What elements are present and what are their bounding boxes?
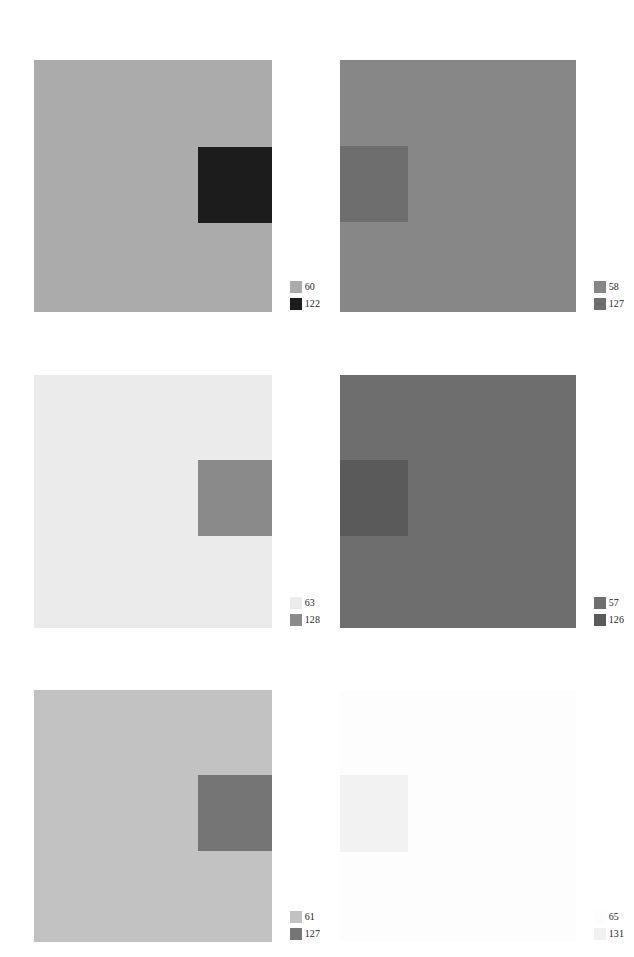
legend-value: 127 — [609, 298, 624, 310]
panel-1: 60 122 — [34, 60, 272, 312]
legend-item: 126 — [594, 613, 624, 626]
legend-item: 128 — [290, 613, 320, 626]
panel-3: 63 128 — [34, 375, 272, 628]
figure-grid: 60 122 58 127 63 — [0, 0, 634, 957]
legend-item: 122 — [290, 297, 320, 310]
legend-value: 127 — [305, 928, 320, 940]
panel-5-patch — [198, 775, 272, 851]
legend-swatch-icon — [594, 614, 606, 626]
legend-value: 58 — [609, 281, 619, 293]
legend-swatch-icon — [594, 911, 606, 923]
legend-value: 65 — [609, 911, 619, 923]
legend-item: 65 — [594, 910, 619, 923]
panel-2-legend: 58 127 — [594, 280, 624, 310]
legend-swatch-icon — [594, 928, 606, 940]
legend-swatch-icon — [290, 614, 302, 626]
legend-item: 127 — [290, 927, 320, 940]
legend-value: 63 — [305, 597, 315, 609]
legend-item: 57 — [594, 596, 619, 609]
panel-4: 57 126 — [340, 375, 576, 628]
legend-item: 60 — [290, 280, 315, 293]
legend-item: 58 — [594, 280, 619, 293]
legend-value: 61 — [305, 911, 315, 923]
legend-item: 63 — [290, 596, 315, 609]
legend-swatch-icon — [594, 298, 606, 310]
panel-4-legend: 57 126 — [594, 596, 624, 626]
legend-item: 61 — [290, 910, 315, 923]
panel-5-legend: 61 127 — [290, 910, 320, 940]
legend-value: 122 — [305, 298, 320, 310]
panel-3-legend: 63 128 — [290, 596, 320, 626]
legend-swatch-icon — [594, 597, 606, 609]
legend-value: 131 — [609, 928, 624, 940]
legend-item: 131 — [594, 927, 624, 940]
legend-swatch-icon — [290, 911, 302, 923]
panel-4-patch — [340, 460, 408, 536]
panel-6-legend: 65 131 — [594, 910, 624, 940]
legend-value: 126 — [609, 614, 624, 626]
legend-value: 128 — [305, 614, 320, 626]
panel-2: 58 127 — [340, 60, 576, 312]
panel-6: 65 131 — [340, 690, 576, 942]
legend-value: 60 — [305, 281, 315, 293]
legend-swatch-icon — [290, 597, 302, 609]
panel-5: 61 127 — [34, 690, 272, 942]
panel-3-patch — [198, 460, 272, 536]
legend-swatch-icon — [594, 281, 606, 293]
panel-1-legend: 60 122 — [290, 280, 320, 310]
legend-swatch-icon — [290, 928, 302, 940]
panel-6-patch — [340, 775, 408, 852]
legend-value: 57 — [609, 597, 619, 609]
panel-1-patch — [198, 147, 272, 223]
panel-2-patch — [340, 146, 408, 222]
legend-swatch-icon — [290, 281, 302, 293]
legend-swatch-icon — [290, 298, 302, 310]
legend-item: 127 — [594, 297, 624, 310]
